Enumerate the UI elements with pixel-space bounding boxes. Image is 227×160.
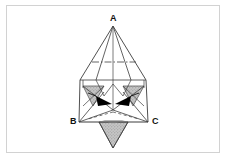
- shaded-face-bottom: [99, 122, 128, 148]
- hidden-edge-right-dashed: [113, 112, 139, 119]
- figure-container: A B C: [0, 0, 227, 160]
- flank-edge-left-outer: [79, 80, 80, 122]
- inner-v-left-b: [104, 84, 113, 96]
- edge-apex-inner-left: [96, 26, 113, 80]
- edge-apex-to-right: [113, 26, 146, 80]
- vertex-label-A: A: [110, 14, 117, 23]
- edge-apex-inner-right: [113, 26, 131, 80]
- hidden-edge-left-dashed: [88, 112, 113, 119]
- edge-apex-to-left: [80, 26, 113, 80]
- arrow-left-icon: [96, 96, 112, 106]
- arrow-right-icon: [115, 96, 131, 106]
- flank-edge-right-outer: [146, 80, 148, 122]
- vertex-label-B: B: [70, 117, 77, 126]
- vertex-label-C: C: [152, 117, 159, 126]
- inner-v-right-b: [113, 84, 123, 96]
- geometry-diagram: [0, 0, 227, 160]
